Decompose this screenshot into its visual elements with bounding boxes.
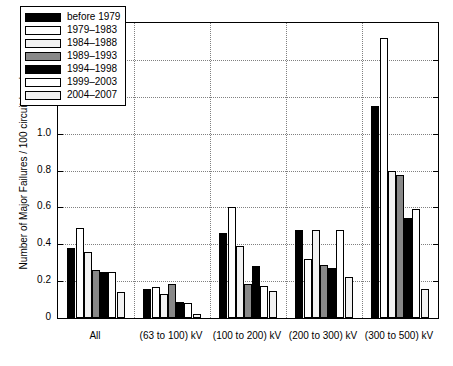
legend-item: 2004–2007 xyxy=(25,89,120,101)
legend-label: 1989–1993 xyxy=(67,51,117,61)
bar xyxy=(336,230,344,319)
bar xyxy=(108,272,116,318)
gridline-vertical xyxy=(286,23,287,318)
y-tick-mark xyxy=(433,171,438,172)
bar xyxy=(160,294,168,318)
y-tick-mark xyxy=(58,281,63,282)
gridline-vertical xyxy=(134,23,135,318)
gridline-vertical xyxy=(210,23,211,318)
gridline-vertical xyxy=(362,23,363,318)
bar xyxy=(328,268,336,318)
bar xyxy=(100,272,108,318)
legend-label: 1984–1988 xyxy=(67,38,117,48)
bar xyxy=(269,291,277,318)
bar xyxy=(67,248,75,318)
legend-swatch xyxy=(25,13,61,22)
bar xyxy=(371,106,379,318)
legend-swatch xyxy=(25,78,61,87)
bar xyxy=(219,233,227,318)
bar xyxy=(76,228,84,318)
legend-label: 1999–2003 xyxy=(67,77,117,87)
y-tick-mark xyxy=(433,207,438,208)
x-tick-label: (63 to 100) kV xyxy=(140,330,203,341)
x-tick-label: (300 to 500) kV xyxy=(365,330,433,341)
legend-swatch xyxy=(25,91,61,100)
bar xyxy=(152,287,160,318)
bar xyxy=(412,209,420,318)
x-tick-label: All xyxy=(89,330,100,341)
bar xyxy=(252,266,260,318)
legend-label: 2004–2007 xyxy=(67,90,117,100)
y-tick-mark xyxy=(433,97,438,98)
legend-item: before 1979 xyxy=(25,11,120,23)
y-tick-mark xyxy=(433,60,438,61)
bar xyxy=(228,207,236,318)
bar xyxy=(168,284,176,318)
y-tick-mark xyxy=(58,244,63,245)
bar xyxy=(260,286,268,318)
y-tick-mark xyxy=(58,171,63,172)
bar xyxy=(236,246,244,318)
bar xyxy=(193,314,201,318)
bar xyxy=(388,171,396,319)
legend-label: 1979–1983 xyxy=(67,25,117,35)
y-tick-mark xyxy=(433,244,438,245)
legend-label: before 1979 xyxy=(67,12,120,22)
bar xyxy=(184,303,192,318)
legend-swatch xyxy=(25,52,61,61)
bar xyxy=(176,302,184,318)
legend-item: 1979–1983 xyxy=(25,24,120,36)
x-tick-label: (100 to 200) kV xyxy=(213,330,281,341)
bar xyxy=(421,289,429,319)
bar xyxy=(117,292,125,318)
bar xyxy=(295,230,303,319)
legend-item: 1994–1998 xyxy=(25,63,120,75)
bar xyxy=(345,277,353,318)
legend-swatch xyxy=(25,39,61,48)
legend-swatch xyxy=(25,65,61,74)
bar xyxy=(312,230,320,319)
legend-item: 1984–1988 xyxy=(25,37,120,49)
y-tick-mark xyxy=(433,281,438,282)
chart-page: 00.20.40.60.81.01.21.41.6 Number of Majo… xyxy=(0,0,453,366)
y-tick-mark xyxy=(58,134,63,135)
bar xyxy=(244,284,252,318)
bar xyxy=(380,38,388,318)
bar xyxy=(92,270,100,318)
bar xyxy=(404,218,412,318)
y-tick-mark xyxy=(58,207,63,208)
y-tick-label: 0 xyxy=(5,312,51,322)
bar xyxy=(84,252,92,318)
legend-item: 1999–2003 xyxy=(25,76,120,88)
legend-swatch xyxy=(25,26,61,35)
y-tick-mark xyxy=(433,134,438,135)
legend: before 19791979–19831984–19881989–199319… xyxy=(20,6,126,106)
bar xyxy=(396,175,404,318)
bar xyxy=(320,265,328,318)
bar xyxy=(304,259,312,318)
legend-label: 1994–1998 xyxy=(67,64,117,74)
bar xyxy=(143,289,151,319)
legend-item: 1989–1993 xyxy=(25,50,120,62)
x-tick-label: (200 to 300) kV xyxy=(289,330,357,341)
